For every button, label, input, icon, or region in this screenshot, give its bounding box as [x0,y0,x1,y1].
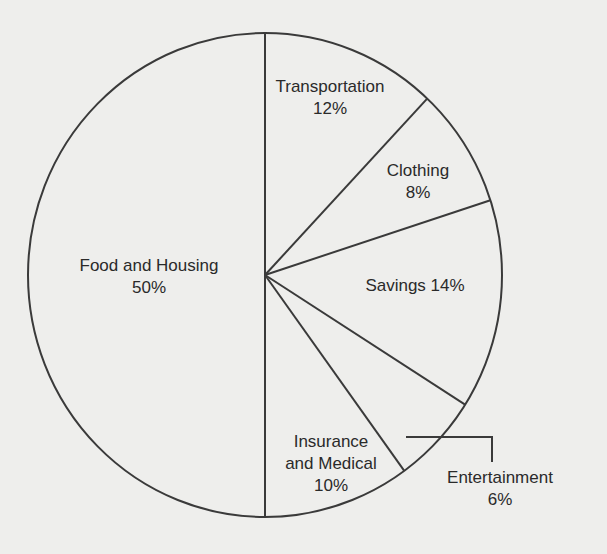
slice-label-entertainment: Entertainment6% [447,468,553,509]
slice-label-transportation: Transportation12% [276,77,385,118]
slice-label-savings: Savings 14% [365,276,464,295]
slice-label-clothing: Clothing8% [387,161,449,202]
pie-chart: Transportation12%Clothing8%Savings 14%En… [0,0,607,554]
slice-label-insurance-and-medical: Insuranceand Medical10% [285,432,377,495]
slice-labels: Transportation12%Clothing8%Savings 14%En… [80,77,554,509]
pie-chart-svg: Transportation12%Clothing8%Savings 14%En… [0,0,607,554]
slice-label-food-and-housing: Food and Housing50% [80,256,219,297]
